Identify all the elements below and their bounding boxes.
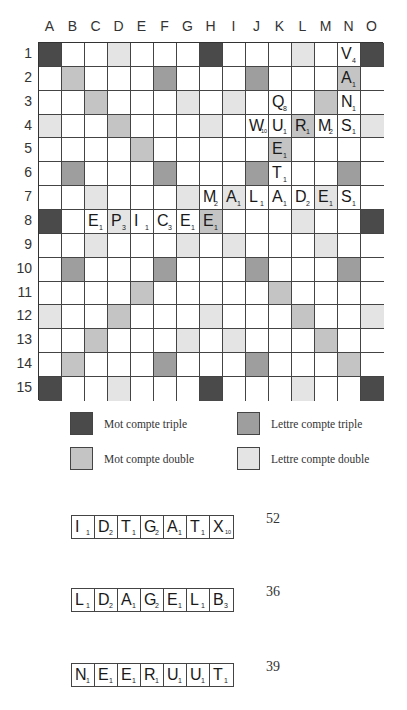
board-cell-j11[interactable] xyxy=(246,282,269,306)
board-cell-a2[interactable] xyxy=(39,67,62,91)
board-cell-n8[interactable] xyxy=(338,210,361,234)
rack-tile[interactable]: B3 xyxy=(210,589,233,611)
board-cell-k12[interactable] xyxy=(269,305,292,329)
board-cell-a3[interactable] xyxy=(39,91,62,115)
board-cell-j1[interactable] xyxy=(246,43,269,67)
board-cell-g12[interactable] xyxy=(177,305,200,329)
board-cell-o8[interactable] xyxy=(361,210,384,234)
board-cell-c6[interactable] xyxy=(85,162,108,186)
board-cell-a13[interactable] xyxy=(39,329,62,353)
board-cell-h8[interactable]: E1 xyxy=(200,210,223,234)
board-cell-b2[interactable] xyxy=(62,67,85,91)
board-cell-e7[interactable] xyxy=(131,186,154,210)
board-cell-g3[interactable] xyxy=(177,91,200,115)
board-cell-c3[interactable] xyxy=(85,91,108,115)
board-cell-n4[interactable]: S1 xyxy=(338,115,361,139)
board-cell-c12[interactable] xyxy=(85,305,108,329)
board-cell-j12[interactable] xyxy=(246,305,269,329)
board-cell-h2[interactable] xyxy=(200,67,223,91)
board-cell-i13[interactable] xyxy=(223,329,246,353)
board-cell-k14[interactable] xyxy=(269,353,292,377)
board-cell-f8[interactable]: C3 xyxy=(154,210,177,234)
rack-tile[interactable]: U1 xyxy=(164,664,187,686)
rack-tile[interactable]: E1 xyxy=(118,664,141,686)
board-cell-c15[interactable] xyxy=(85,377,108,401)
board-cell-i8[interactable] xyxy=(223,210,246,234)
rack-tile[interactable]: L1 xyxy=(187,589,210,611)
board-cell-j6[interactable] xyxy=(246,162,269,186)
board-cell-h9[interactable] xyxy=(200,234,223,258)
board-cell-k4[interactable]: U1 xyxy=(269,115,292,139)
board-cell-l7[interactable]: D2 xyxy=(292,186,315,210)
rack-tile[interactable]: T1 xyxy=(187,516,210,538)
board-cell-n15[interactable] xyxy=(338,377,361,401)
rack-tile[interactable]: L1 xyxy=(72,589,95,611)
rack-tile[interactable]: N1 xyxy=(72,664,95,686)
rack-tile[interactable]: X10 xyxy=(210,516,233,538)
board-cell-o6[interactable] xyxy=(361,162,384,186)
board-cell-m2[interactable] xyxy=(315,67,338,91)
board-cell-n6[interactable] xyxy=(338,162,361,186)
board-cell-o11[interactable] xyxy=(361,282,384,306)
board-cell-k10[interactable] xyxy=(269,258,292,282)
board-cell-o1[interactable] xyxy=(361,43,384,67)
board-cell-e6[interactable] xyxy=(131,162,154,186)
board-cell-i15[interactable] xyxy=(223,377,246,401)
board-cell-a4[interactable] xyxy=(39,115,62,139)
board-cell-o13[interactable] xyxy=(361,329,384,353)
board-cell-f10[interactable] xyxy=(154,258,177,282)
board-cell-i1[interactable] xyxy=(223,43,246,67)
board-cell-b14[interactable] xyxy=(62,353,85,377)
board-cell-f3[interactable] xyxy=(154,91,177,115)
board-cell-h7[interactable]: M2 xyxy=(200,186,223,210)
board-cell-a9[interactable] xyxy=(39,234,62,258)
board-cell-o7[interactable] xyxy=(361,186,384,210)
board-cell-f2[interactable] xyxy=(154,67,177,91)
board-cell-g7[interactable] xyxy=(177,186,200,210)
board-cell-k2[interactable] xyxy=(269,67,292,91)
board-cell-k9[interactable] xyxy=(269,234,292,258)
board-cell-m12[interactable] xyxy=(315,305,338,329)
board-cell-l11[interactable] xyxy=(292,282,315,306)
rack-tile[interactable]: I1 xyxy=(72,516,95,538)
board-cell-c11[interactable] xyxy=(85,282,108,306)
board-cell-g6[interactable] xyxy=(177,162,200,186)
board-cell-b7[interactable] xyxy=(62,186,85,210)
board-cell-h11[interactable] xyxy=(200,282,223,306)
board-cell-g14[interactable] xyxy=(177,353,200,377)
rack-tile[interactable]: A1 xyxy=(164,516,187,538)
rack-tile[interactable]: D2 xyxy=(95,589,118,611)
board-cell-f12[interactable] xyxy=(154,305,177,329)
board-cell-f15[interactable] xyxy=(154,377,177,401)
board-cell-a12[interactable] xyxy=(39,305,62,329)
rack-tile[interactable]: T1 xyxy=(210,664,233,686)
board-cell-e3[interactable] xyxy=(131,91,154,115)
board-cell-n9[interactable] xyxy=(338,234,361,258)
board-cell-d1[interactable] xyxy=(108,43,131,67)
board-cell-o14[interactable] xyxy=(361,353,384,377)
board-cell-a6[interactable] xyxy=(39,162,62,186)
board-cell-l3[interactable] xyxy=(292,91,315,115)
board-cell-g13[interactable] xyxy=(177,329,200,353)
board-cell-j3[interactable] xyxy=(246,91,269,115)
board-cell-d4[interactable] xyxy=(108,115,131,139)
board-cell-f14[interactable] xyxy=(154,353,177,377)
board-cell-a7[interactable] xyxy=(39,186,62,210)
board-cell-j4[interactable]: W10 xyxy=(246,115,269,139)
board-cell-m13[interactable] xyxy=(315,329,338,353)
board-cell-e5[interactable] xyxy=(131,138,154,162)
rack-tile[interactable]: G2 xyxy=(141,516,164,538)
board-cell-f9[interactable] xyxy=(154,234,177,258)
board-cell-a1[interactable] xyxy=(39,43,62,67)
board-cell-b13[interactable] xyxy=(62,329,85,353)
board-cell-b5[interactable] xyxy=(62,138,85,162)
board-cell-e4[interactable] xyxy=(131,115,154,139)
board-cell-i7[interactable]: A1 xyxy=(223,186,246,210)
board-cell-h10[interactable] xyxy=(200,258,223,282)
board-cell-h1[interactable] xyxy=(200,43,223,67)
board-cell-a14[interactable] xyxy=(39,353,62,377)
board-cell-g4[interactable] xyxy=(177,115,200,139)
rack-tile[interactable]: R1 xyxy=(141,664,164,686)
board-cell-h12[interactable] xyxy=(200,305,223,329)
board-cell-e9[interactable] xyxy=(131,234,154,258)
